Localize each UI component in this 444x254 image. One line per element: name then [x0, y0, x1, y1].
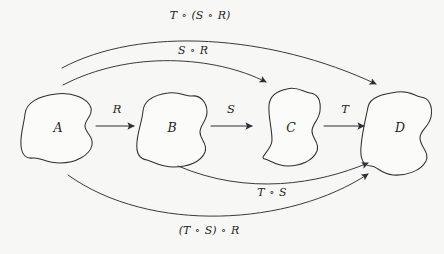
arc-label-part: (T — [179, 224, 192, 237]
set-label-a: A — [52, 120, 62, 135]
arc-label-part: R — [199, 44, 208, 57]
arrow-group-r: R — [96, 102, 134, 126]
arc-label-part: ∘ — [195, 224, 200, 237]
arc-label-part: S) — [205, 224, 217, 237]
arc-label-part: ∘ — [221, 224, 226, 237]
arc-label-part: (S — [191, 9, 203, 22]
arc-line-t-s — [178, 163, 368, 184]
set-blob-group-d: D — [361, 92, 432, 176]
set-blob-group-b: B — [137, 93, 207, 167]
composition-diagram: A B C D R S T — [0, 0, 444, 254]
arc-label-part: S — [178, 44, 186, 57]
set-blob-group-a: A — [21, 94, 92, 163]
arc-label-group-t-s: T∘S — [257, 186, 287, 199]
diagram-canvas: A B C D R S T — [0, 0, 444, 254]
arc-label-part: ∘ — [182, 9, 187, 22]
arc-label-group-ts-of-r: (T∘S)∘R — [179, 224, 240, 237]
arc-label-t-s: T∘S — [257, 186, 287, 199]
set-label-c: C — [286, 120, 296, 135]
arc-line-t-of-s-r — [62, 41, 376, 84]
arc-label-part: R) — [217, 9, 231, 22]
arc-label-part: R — [230, 224, 239, 237]
arc-label-part: ∘ — [208, 9, 213, 22]
arrow-group-t: T — [324, 102, 364, 126]
arc-label-part: ∘ — [269, 186, 274, 199]
set-label-d: D — [394, 120, 405, 135]
arc-label-s-r: S∘R — [178, 44, 208, 57]
arrow-label-t: T — [341, 102, 350, 116]
arc-label-part: T — [257, 186, 266, 199]
arc-label-ts-of-r: (T∘S)∘R — [179, 224, 240, 237]
set-blob-group-c: C — [263, 88, 320, 166]
arc-label-part: T — [170, 9, 179, 22]
set-label-b: B — [166, 120, 176, 135]
arc-label-t-of-s-r: T∘(S∘R) — [170, 9, 231, 22]
arc-line-s-r — [63, 61, 266, 85]
arrow-label-s: S — [227, 102, 235, 116]
arrow-label-r: R — [112, 102, 122, 116]
arc-line-ts-of-r — [68, 174, 368, 216]
arc-label-part: ∘ — [190, 44, 195, 57]
arc-label-part: S — [279, 186, 287, 199]
arc-label-group-t-of-s-r: T∘(S∘R) — [170, 9, 231, 22]
arrow-group-s: S — [211, 102, 252, 126]
arc-label-group-s-r: S∘R — [178, 44, 208, 57]
